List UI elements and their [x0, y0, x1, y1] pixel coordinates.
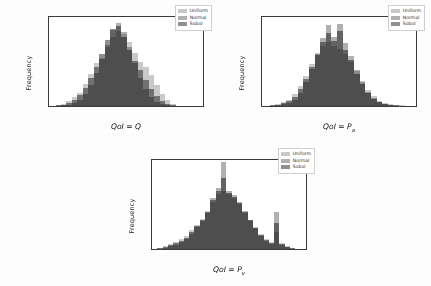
legend-item: Sobol [281, 164, 311, 171]
x-tick-mark [126, 106, 127, 107]
x-tick-label: 175 [190, 106, 198, 107]
x-axis-label-subscript: v [242, 270, 245, 276]
legend: UniformNormalSobol [278, 148, 315, 174]
y-tick-mark [48, 105, 49, 106]
legend-swatch-icon [391, 22, 400, 26]
legend-swatch-icon [281, 159, 290, 163]
x-tick-label: 25 [89, 106, 95, 107]
x-tick-mark [218, 249, 219, 250]
y-axis-label: Frequency [25, 55, 33, 90]
y-tick-label: 60 [48, 62, 49, 67]
x-tick-mark [194, 106, 195, 107]
x-tick-label: 150 [173, 106, 181, 107]
legend-item: Sobol [391, 21, 421, 28]
y-tick-mark [48, 92, 49, 93]
y-tick-label: 160 [261, 16, 262, 17]
figure-histograms-qoi: Frequency 020406080100120140-25025507510… [0, 0, 431, 286]
y-tick-mark [261, 51, 262, 52]
y-tick-label: 80 [261, 55, 262, 60]
y-tick-label: 175 [151, 159, 152, 161]
y-tick-label: 140 [261, 23, 262, 28]
x-tick-mark [412, 106, 413, 107]
x-tick-label: 2.7 [334, 106, 341, 107]
legend-swatch-icon [391, 16, 400, 20]
x-axis-label: QoI = Q [48, 122, 204, 133]
x-tick-label: 3.0 [390, 106, 397, 107]
x-tick-label: 2.5 [296, 106, 303, 107]
x-tick-label: 2.3 [261, 106, 265, 107]
x-tick-mark [298, 249, 299, 250]
y-tick-mark [261, 72, 262, 73]
x-tick-mark [143, 106, 144, 107]
y-tick-mark [151, 223, 152, 224]
y-tick-mark [261, 94, 262, 95]
y-axis-label: Frequency [128, 198, 136, 233]
x-tick-mark [244, 249, 245, 250]
x-tick-mark [160, 106, 161, 107]
histogram-bar [399, 105, 405, 106]
y-tick-label: 20 [48, 86, 49, 91]
y-tick-label: 50 [151, 217, 152, 222]
x-tick-label: 2.6 [315, 106, 322, 107]
x-tick-label: 2.9 [371, 106, 378, 107]
x-tick-mark [57, 106, 58, 107]
y-tick-label: 75 [151, 205, 152, 210]
y-tick-mark [48, 19, 49, 20]
y-tick-mark [48, 55, 49, 56]
x-tick-mark [262, 106, 263, 107]
y-tick-mark [261, 61, 262, 62]
legend-label: Sobol [293, 164, 306, 171]
x-tick-label: 0 [73, 106, 76, 107]
x-axis-label-base: QoI = P [323, 122, 352, 131]
y-tick-label: 60 [261, 66, 262, 71]
legend-label: Sobol [190, 21, 203, 28]
y-tick-label: 100 [261, 45, 262, 50]
y-tick-label: 120 [48, 25, 49, 30]
chart-panel-qoi-pv: Frequency 0255075100125150175-1.0-0.50.0… [107, 145, 319, 286]
legend-swatch-icon [178, 22, 187, 26]
y-tick-label: 100 [48, 37, 49, 42]
x-tick-label: 1.5 [295, 249, 302, 250]
y-tick-mark [151, 211, 152, 212]
y-tick-mark [151, 174, 152, 175]
x-tick-label: 2.4 [277, 106, 284, 107]
legend-swatch-icon [281, 152, 290, 156]
legend-item: Sobol [178, 21, 208, 28]
y-tick-mark [48, 43, 49, 44]
y-tick-label: 0 [261, 99, 262, 104]
x-axis-label-base: QoI = Q [111, 122, 141, 131]
x-tick-mark [337, 106, 338, 107]
y-tick-mark [261, 18, 262, 19]
x-tick-mark [374, 106, 375, 107]
y-axis-label: Frequency [238, 55, 246, 90]
y-tick-label: 0 [151, 242, 152, 247]
x-tick-mark [191, 249, 192, 250]
x-tick-mark [74, 106, 75, 107]
x-axis-label-base: QoI = P [213, 265, 242, 274]
histogram-bar [274, 212, 279, 249]
x-tick-label: 0.5 [241, 249, 248, 250]
x-tick-mark [280, 106, 281, 107]
y-tick-label: 25 [151, 229, 152, 234]
x-tick-label: 100 [139, 106, 147, 107]
y-tick-mark [261, 83, 262, 84]
y-tick-label: 100 [151, 193, 152, 198]
y-tick-label: 80 [48, 49, 49, 54]
x-tick-label: -1.0 [161, 249, 170, 250]
y-tick-label: 150 [151, 168, 152, 173]
x-tick-label: 50 [106, 106, 112, 107]
x-tick-mark [355, 106, 356, 107]
y-tick-mark [151, 199, 152, 200]
legend-swatch-icon [178, 9, 187, 13]
chart-panel-qoi-q: Frequency 020406080100120140-25025507510… [4, 2, 216, 143]
y-tick-mark [48, 31, 49, 32]
y-tick-mark [48, 80, 49, 81]
x-tick-mark [299, 106, 300, 107]
x-tick-mark [165, 249, 166, 250]
x-tick-label: -25 [54, 106, 61, 107]
y-tick-mark [151, 162, 152, 163]
x-tick-label: 0.0 [215, 249, 222, 250]
legend: UniformNormalSobol [388, 5, 425, 31]
x-tick-label: 2.8 [352, 106, 359, 107]
x-tick-mark [91, 106, 92, 107]
